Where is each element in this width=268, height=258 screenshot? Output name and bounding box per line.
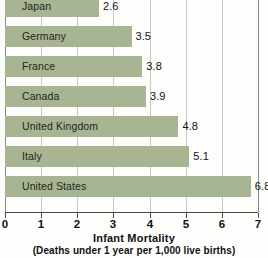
- bar-row: Italy5.1: [0, 146, 268, 167]
- bar-row: United States6.8: [0, 176, 268, 197]
- tick-label-5: 5: [176, 218, 196, 230]
- bar: [5, 0, 99, 17]
- bar-value-label: 3.8: [146, 56, 162, 77]
- chart-title: Infant Mortality: [0, 232, 268, 244]
- tick-label-7: 7: [248, 218, 268, 230]
- bar-category-label: Japan: [22, 0, 51, 17]
- tick-label-6: 6: [212, 218, 232, 230]
- bar-value-label: 4.8: [182, 116, 198, 137]
- bar-category-label: Germany: [22, 26, 66, 47]
- infant-mortality-bar-chart: Japan2.6Germany3.5France3.8Canada3.9Unit…: [0, 0, 268, 258]
- tick-label-4: 4: [140, 218, 160, 230]
- bar-row: Japan2.6: [0, 0, 268, 17]
- bar-category-label: Canada: [22, 86, 59, 107]
- bar-row: Canada3.9: [0, 86, 268, 107]
- bar-row: United Kingdom4.8: [0, 116, 268, 137]
- bar-category-label: Italy: [22, 146, 42, 167]
- bar-category-label: United States: [22, 176, 86, 197]
- x-axis-line: [5, 212, 258, 213]
- tick-label-0: 0: [0, 218, 15, 230]
- bar-category-label: France: [22, 56, 55, 77]
- chart-subtitle: (Deaths under 1 year per 1,000 live birt…: [0, 245, 268, 256]
- plot-area: Japan2.6Germany3.5France3.8Canada3.9Unit…: [0, 0, 268, 212]
- bar-row: Germany3.5: [0, 26, 268, 47]
- bar-value-label: 5.1: [193, 146, 209, 167]
- tick-label-3: 3: [103, 218, 123, 230]
- tick-label-1: 1: [31, 218, 51, 230]
- tick-label-2: 2: [67, 218, 87, 230]
- bar-value-label: 3.9: [150, 86, 166, 107]
- bar-category-label: United Kingdom: [22, 116, 98, 137]
- bar-value-label: 2.6: [103, 0, 119, 17]
- bar-value-label: 6.8: [255, 176, 268, 197]
- bar-value-label: 3.5: [136, 26, 152, 47]
- bar-row: France3.8: [0, 56, 268, 77]
